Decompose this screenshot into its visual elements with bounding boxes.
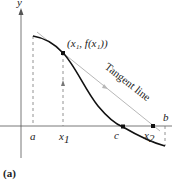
y-axis-arrow-icon (19, 8, 24, 15)
point-x2 (151, 124, 155, 128)
label-a: a (30, 130, 36, 142)
label-c: c (114, 129, 119, 141)
figure-caption: (a) (3, 167, 16, 180)
label-b: b (163, 111, 169, 123)
y-axis-label: y (16, 0, 22, 8)
point-x1 (61, 51, 65, 55)
point-coordinate-label: (x₁, f(x₁)) (67, 37, 108, 50)
label-x2: x2 (143, 129, 155, 144)
dashed-arrow-icon (61, 80, 65, 86)
point-c (121, 125, 125, 129)
tangent-line-label: Tangent line (103, 60, 153, 103)
newtons-method-diagram: y a x1 c x2 b (x₁, f(x₁)) Tangent line (… (0, 0, 172, 193)
y-axis: y (16, 0, 24, 158)
label-x1: x1 (58, 130, 69, 145)
